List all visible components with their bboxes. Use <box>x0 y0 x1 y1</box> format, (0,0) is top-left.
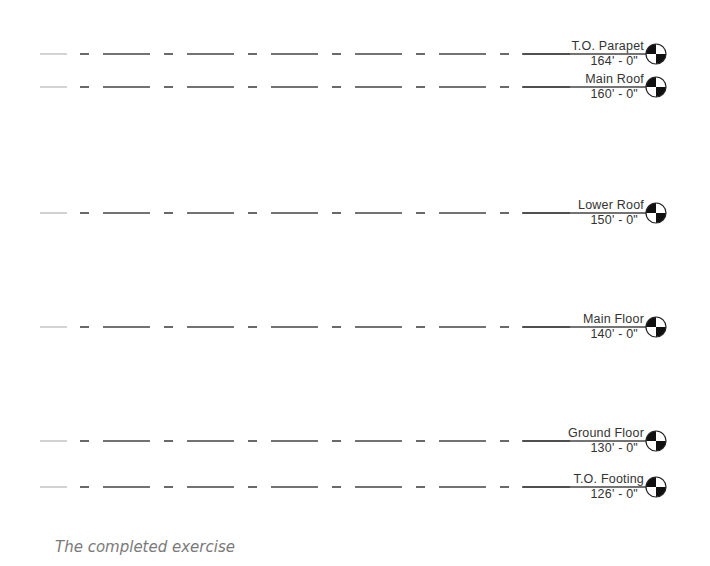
level-head-marker-icon[interactable] <box>645 202 667 224</box>
figure-caption: The completed exercise <box>55 538 235 556</box>
level-name: Ground Floor <box>568 427 644 440</box>
level-name: Main Roof <box>585 73 644 86</box>
level-head-marker-icon[interactable] <box>645 476 667 498</box>
level-name: Lower Roof <box>578 199 644 212</box>
level-elevation: 126' - 0" <box>590 488 638 501</box>
level-head-marker-icon[interactable] <box>645 430 667 452</box>
level-elevation: 140' - 0" <box>590 328 638 341</box>
level-head-marker-icon[interactable] <box>645 43 667 65</box>
level-head-marker-icon[interactable] <box>645 76 667 98</box>
level-name: Main Floor <box>583 313 644 326</box>
dashed-level-line <box>0 438 660 444</box>
level-name: T.O. Parapet <box>571 40 644 53</box>
level-elevation: 130' - 0" <box>590 442 638 455</box>
level-elevation: 160' - 0" <box>590 88 638 101</box>
level-name: T.O. Footing <box>574 473 645 486</box>
level-head-marker-icon[interactable] <box>645 316 667 338</box>
dashed-level-line <box>0 484 660 490</box>
dashed-level-line <box>0 51 660 57</box>
level-elevation: 150' - 0" <box>590 214 638 227</box>
dashed-level-line <box>0 210 660 216</box>
level-elevation: 164' - 0" <box>590 55 638 68</box>
dashed-level-line <box>0 324 660 330</box>
dashed-level-line <box>0 84 660 90</box>
